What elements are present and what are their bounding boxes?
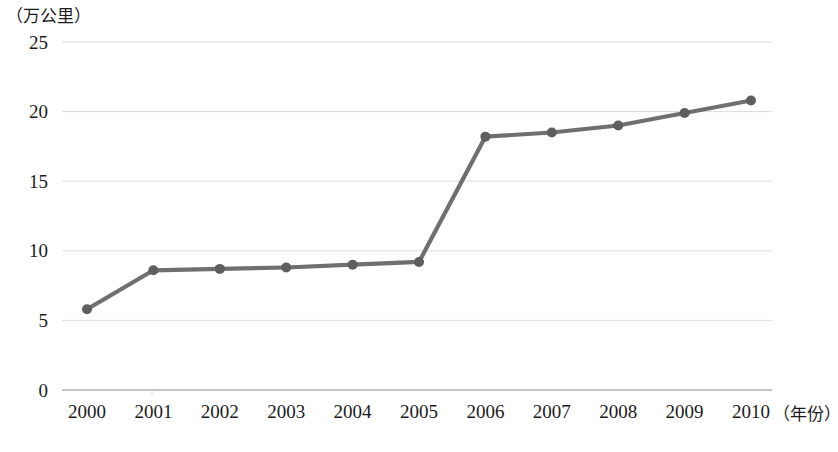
data-point-marker [680, 108, 690, 118]
y-axis-tick-labels: 0510152025 [29, 32, 48, 401]
x-axis-tick-label: 2000 [68, 401, 106, 422]
data-point-marker [215, 264, 225, 274]
gridlines [62, 42, 772, 395]
data-series [82, 95, 756, 314]
line-chart-figure: （万公里） （年份） 0510152025 200020012002200320… [0, 0, 838, 452]
x-axis-tick-label: 2008 [599, 401, 637, 422]
data-point-marker [348, 260, 358, 270]
y-axis-tick-label: 15 [29, 171, 48, 192]
chart-plot-area: 0510152025 20002001200220032004200520062… [0, 0, 838, 452]
data-point-marker [746, 95, 756, 105]
x-axis-tick-label: 2002 [201, 401, 239, 422]
x-axis-tick-label: 2001 [134, 401, 172, 422]
y-axis-tick-label: 10 [29, 240, 48, 261]
y-axis-tick-label: 5 [39, 310, 49, 331]
x-axis-tick-labels: 2000200120022003200420052006200720082009… [68, 401, 770, 422]
x-axis-tick-label: 2003 [267, 401, 305, 422]
x-axis-tick-label: 2007 [533, 401, 571, 422]
data-point-marker [547, 127, 557, 137]
data-point-marker [613, 121, 623, 131]
series-line [87, 100, 751, 309]
x-axis-tick-label: 2004 [334, 401, 373, 422]
x-axis-tick-label: 2010 [732, 401, 770, 422]
x-axis-tick-label: 2006 [466, 401, 504, 422]
data-point-marker [414, 257, 424, 267]
y-axis-tick-label: 25 [29, 32, 48, 53]
x-axis-tick-label: 2005 [400, 401, 438, 422]
y-axis-tick-label: 20 [29, 101, 48, 122]
data-point-marker [148, 265, 158, 275]
x-axis-tick-label: 2009 [666, 401, 704, 422]
y-axis-tick-label: 0 [39, 380, 49, 401]
data-point-marker [82, 304, 92, 314]
data-point-marker [480, 132, 490, 142]
data-point-marker [281, 263, 291, 273]
